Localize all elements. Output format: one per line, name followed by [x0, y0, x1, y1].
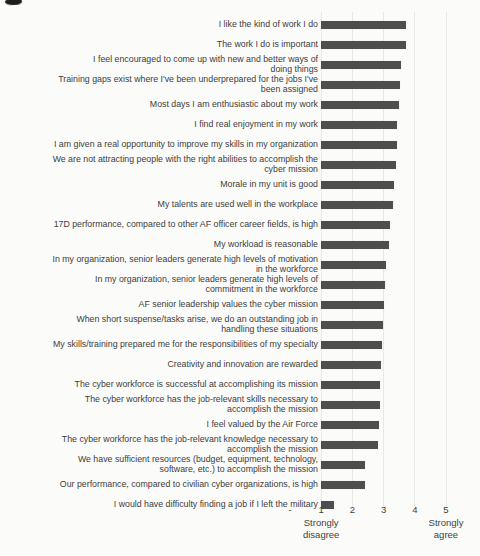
category-label: The cyber workforce is successful at acc… — [8, 380, 318, 390]
bar — [321, 321, 383, 329]
bar — [321, 261, 386, 269]
category-label: In my organization, senior leaders gener… — [8, 275, 318, 295]
category-label: Creativity and innovation are rewarded — [8, 360, 318, 370]
bar — [321, 201, 393, 209]
category-label: In my organization, senior leaders gener… — [8, 255, 318, 275]
category-label: When short suspense/tasks arise, we do a… — [8, 315, 318, 335]
x-tick-label-1: 1 — [319, 504, 324, 515]
category-label: Our performance, compared to civilian cy… — [8, 480, 318, 490]
bar — [321, 81, 400, 89]
axis-caption: Strongly disagree — [303, 517, 339, 540]
bar — [321, 101, 399, 109]
category-label: I feel encouraged to come up with new an… — [8, 55, 318, 75]
category-label: The cyber workforce has the job-relevant… — [8, 435, 318, 455]
x-tick-label-3: 3 — [381, 504, 386, 515]
category-label: My talents are used well in the workplac… — [8, 200, 318, 210]
gridline-4 — [414, 12, 415, 507]
bar — [321, 401, 380, 409]
bar — [321, 21, 406, 29]
bar — [321, 241, 389, 249]
bar — [321, 161, 396, 169]
category-label: We are not attracting people with the ri… — [8, 155, 318, 175]
category-label: 17D performance, compared to other AF of… — [8, 220, 318, 230]
category-label: I like the kind of work I do — [8, 20, 318, 30]
x-tick-label-2: 2 — [350, 504, 355, 515]
category-label: We have sufficient resources (budget, eq… — [8, 455, 318, 475]
bar — [321, 441, 378, 449]
category-label: I find real enjoyment in my work — [8, 120, 318, 130]
bar — [321, 381, 380, 389]
gridline-5 — [446, 12, 447, 507]
bar — [321, 341, 382, 349]
bar — [321, 361, 381, 369]
likert-bar-chart: I like the kind of work I doThe work I d… — [0, 0, 480, 556]
bar — [321, 61, 401, 69]
bar — [321, 41, 406, 49]
category-label: I feel valued by the Air Force — [8, 420, 318, 430]
scanned-survey-chart-page: I like the kind of work I doThe work I d… — [0, 0, 480, 556]
category-label: The cyber workforce has the job-relevant… — [8, 395, 318, 415]
category-label: I am given a real opportunity to improve… — [8, 140, 318, 150]
x-tick-label--: - — [288, 504, 291, 515]
bar — [321, 461, 365, 469]
bar — [321, 121, 397, 129]
bar — [321, 281, 385, 289]
category-label: AF senior leadership values the cyber mi… — [8, 300, 318, 310]
x-tick-label-5: 5 — [443, 504, 448, 515]
axis-caption: Strongly agree — [429, 517, 464, 540]
bar — [321, 301, 384, 309]
bar — [321, 221, 390, 229]
category-label: The work I do is important — [8, 40, 318, 50]
category-label: Morale in my unit is good — [8, 180, 318, 190]
category-label: My skills/training prepared me for the r… — [8, 340, 318, 350]
category-label: I would have difficulty finding a job if… — [8, 500, 318, 510]
category-label: My workload is reasonable — [8, 240, 318, 250]
bar — [321, 181, 394, 189]
x-tick-label-4: 4 — [412, 504, 417, 515]
category-label: Training gaps exist where I've been unde… — [8, 75, 318, 95]
category-label: Most days I am enthusiastic about my wor… — [8, 100, 318, 110]
bar — [321, 421, 379, 429]
bar — [321, 481, 365, 489]
bar — [321, 141, 397, 149]
